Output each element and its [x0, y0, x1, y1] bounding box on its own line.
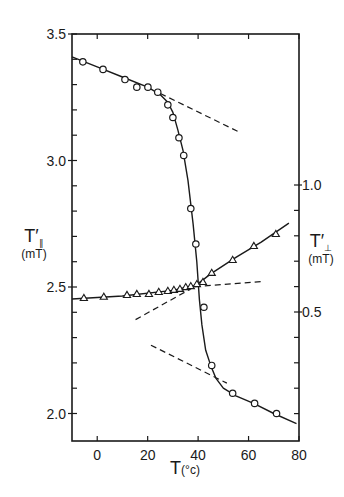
left-tick-label: 2.5	[47, 279, 67, 295]
left-tick-label: 3.5	[47, 26, 67, 42]
dashed-guide-line	[160, 93, 240, 132]
x-tick-label: 0	[93, 447, 101, 463]
right-tick-label: 1.0	[302, 177, 322, 193]
circle-marker	[134, 84, 140, 90]
fit-curves	[72, 57, 297, 424]
circle-marker	[165, 102, 171, 108]
circle-marker	[80, 59, 86, 65]
circle-marker	[193, 241, 199, 247]
triangle-marker	[100, 293, 107, 299]
left-axis-unit: (mT)	[14, 248, 54, 260]
x-tick-label: 60	[241, 447, 257, 463]
circle-marker	[251, 400, 257, 406]
left-axis-symbol: T′	[24, 226, 38, 246]
circle-marker	[181, 152, 187, 158]
circle-marker	[273, 410, 279, 416]
x-tick-label: 80	[291, 447, 307, 463]
circle-marker	[145, 84, 151, 90]
plot-frame	[72, 34, 299, 441]
circle-marker	[170, 114, 176, 120]
x-tick-label: 20	[140, 447, 156, 463]
circle-marker	[122, 76, 128, 82]
plot-border	[72, 34, 299, 441]
circle-marker	[188, 205, 194, 211]
right-axis-title: T′⊥ (mT)	[301, 232, 341, 265]
right-axis-unit: (mT)	[301, 253, 341, 265]
left-tick-label: 3.0	[47, 153, 67, 169]
circle-marker	[209, 362, 215, 368]
circle-marker	[176, 135, 182, 141]
right-axis-symbol: T′	[310, 231, 324, 251]
circle-marker	[155, 89, 161, 95]
data-markers	[80, 59, 280, 417]
circle-marker	[201, 304, 207, 310]
dashed-guide-lines	[136, 93, 262, 383]
x-axis-symbol: T	[170, 458, 181, 478]
x-axis-title: T(°c)	[160, 459, 210, 477]
axis-ticks: 0204060802.02.53.03.50.51.0	[47, 26, 322, 463]
left-axis-title: T′∥ (mT)	[14, 227, 54, 260]
right-tick-label: 0.5	[302, 304, 322, 320]
x-axis-unit: (°c)	[181, 463, 200, 477]
circle-marker	[100, 66, 106, 72]
triangle-marker	[123, 291, 130, 297]
left-tick-label: 2.0	[47, 406, 67, 422]
circle-marker	[229, 390, 235, 396]
